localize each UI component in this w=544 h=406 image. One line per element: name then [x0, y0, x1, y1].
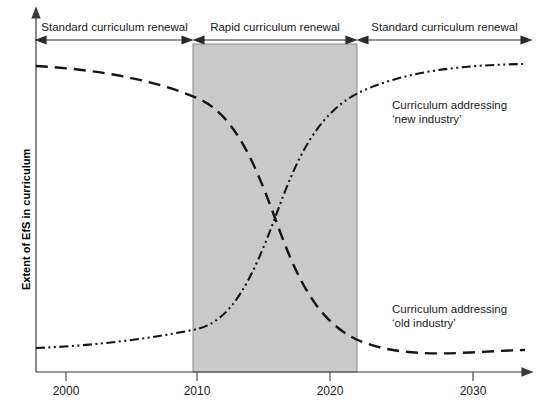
- phase-label-left: Standard curriculum renewal: [36, 21, 193, 34]
- curve-label-old-industry: Curriculum addressing ‘old industry’: [392, 303, 507, 330]
- curve-label-old-industry-line2: ‘old industry’: [392, 317, 507, 331]
- chart-canvas: [0, 0, 544, 406]
- curve-label-old-industry-line1: Curriculum addressing: [392, 303, 507, 317]
- x-tick-label-2020: 2020: [300, 384, 360, 398]
- shaded-band-rapid-renewal: [193, 44, 357, 372]
- phase-label-middle: Rapid curriculum renewal: [193, 21, 357, 34]
- curve-label-new-industry-line1: Curriculum addressing: [392, 99, 507, 113]
- y-axis: [32, 8, 40, 372]
- phase-label-right: Standard curriculum renewal: [357, 21, 532, 34]
- phase-arrow-row: [36, 36, 531, 43]
- x-tick-label-2030: 2030: [443, 384, 503, 398]
- curve-label-new-industry-line2: ‘new industry’: [392, 113, 507, 127]
- chart-figure: Standard curriculum renewal Rapid curric…: [0, 0, 544, 406]
- x-tick-label-2000: 2000: [36, 384, 96, 398]
- curve-label-new-industry: Curriculum addressing ‘new industry’: [392, 99, 507, 126]
- x-axis-ticks: [66, 372, 473, 381]
- x-tick-label-2010: 2010: [167, 384, 227, 398]
- y-axis-title: Extent of EfS in curriculum: [20, 149, 32, 290]
